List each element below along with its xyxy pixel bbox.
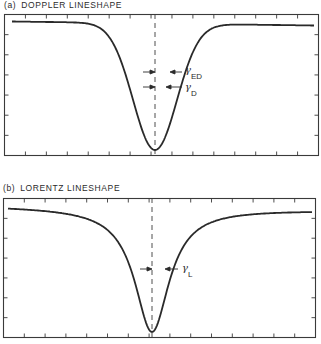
panel-a-gamma-d-label: γD [185, 81, 197, 98]
figure-canvas: γED γD γL [0, 0, 321, 344]
panel-a-doppler-curve [12, 22, 314, 151]
panel-a-plot: γED γD [5, 14, 319, 156]
panel-a-gamma-ed-marker [143, 70, 182, 74]
panel-a-frame [5, 15, 319, 156]
panel-a-ticks [5, 15, 319, 156]
panel-a-gamma-d-marker [143, 85, 182, 89]
panel-b-gamma-l-label: γL [182, 262, 193, 279]
panel-b-plot: γL [4, 198, 316, 338]
panel-a-gamma-ed-label: γED [185, 64, 202, 81]
panel-b-lorentz-curve [8, 209, 312, 332]
